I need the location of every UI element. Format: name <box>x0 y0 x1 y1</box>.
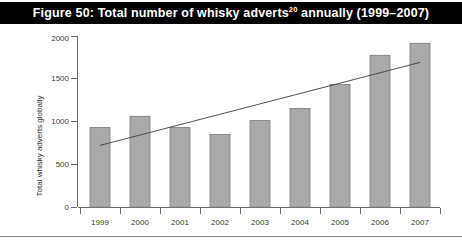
y-axis-ticks: 2000 1500 1000 500 0 <box>51 34 77 212</box>
figure-title: Figure 50: Total number of whisky advert… <box>33 6 429 20</box>
x-tick-label: 2002 <box>211 218 229 227</box>
bar-series <box>90 43 430 207</box>
figure-title-band: Figure 50: Total number of whisky advert… <box>0 2 462 24</box>
bar-2002 <box>210 134 230 207</box>
bar-2004 <box>290 109 310 208</box>
x-tick-label: 2007 <box>411 218 429 227</box>
figure-container: Figure 50: Total number of whisky advert… <box>0 0 462 240</box>
figure-title-prefix: Figure 50: Total number of whisky advert… <box>33 6 289 20</box>
bar-2003 <box>250 121 270 207</box>
bar-2006 <box>370 55 390 207</box>
figure-title-suffix: annually (1999–2007) <box>297 6 429 20</box>
y-tick-label: 500 <box>56 160 70 169</box>
y-axis-title: Total whisky adverts globally <box>35 96 44 197</box>
x-tick-label: 2004 <box>291 218 309 227</box>
bar-2005 <box>330 85 350 208</box>
chart-plot-area: Total whisky adverts globally 2000 1500 … <box>0 24 462 236</box>
x-tick-label: 2006 <box>371 218 389 227</box>
x-tick-label: 1999 <box>91 218 109 227</box>
bar-1999 <box>90 128 110 208</box>
y-tick-label: 0 <box>65 203 70 212</box>
bar-chart: Total whisky adverts globally 2000 1500 … <box>0 24 462 236</box>
x-tick-label: 2005 <box>331 218 349 227</box>
bar-2001 <box>170 128 190 208</box>
x-tick-label: 2003 <box>251 218 269 227</box>
x-axis-ticks: 1999 2000 2001 2002 2003 2004 2005 2006 … <box>80 208 440 227</box>
page-bottom-rule <box>0 236 462 237</box>
x-tick-label: 2000 <box>131 218 149 227</box>
x-tick-label: 2001 <box>171 218 189 227</box>
bar-2000 <box>130 116 150 207</box>
y-tick-label: 2000 <box>51 34 69 43</box>
y-tick-label: 1500 <box>51 74 69 83</box>
bar-2007 <box>410 43 430 207</box>
y-tick-label: 1000 <box>51 117 69 126</box>
